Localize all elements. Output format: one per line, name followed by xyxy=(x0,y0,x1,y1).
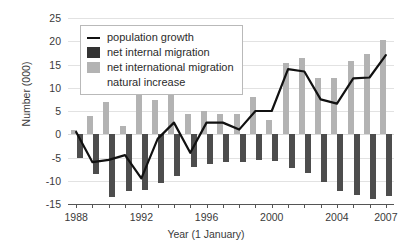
x-tick-mark-1996 xyxy=(207,204,208,208)
y-tick-label-10: 10 xyxy=(49,82,61,94)
x-tick-mark-1997 xyxy=(223,204,224,208)
x-axis xyxy=(68,204,394,205)
chart-legend: population growthnet internal migrationn… xyxy=(80,25,243,95)
x-tick-mark-1995 xyxy=(190,204,191,208)
x-tick-label-1996: 1996 xyxy=(195,211,218,223)
x-tick-mark-2004 xyxy=(337,204,338,208)
x-tick-mark-2003 xyxy=(321,204,322,208)
legend-item-1: net internal migration xyxy=(87,45,234,60)
legend-label: net international migration xyxy=(107,61,234,74)
x-tick-mark-2001 xyxy=(288,204,289,208)
legend-label: population growth xyxy=(107,31,194,44)
x-tick-mark-2002 xyxy=(304,204,305,208)
x-tick-mark-1999 xyxy=(255,204,256,208)
x-tick-mark-1990 xyxy=(109,204,110,208)
x-tick-label-2004: 2004 xyxy=(325,211,348,223)
y-tick-label-20: 20 xyxy=(49,35,61,47)
legend-swatch-light-icon xyxy=(87,62,100,73)
x-tick-label-1992: 1992 xyxy=(130,211,153,223)
y-tick-label-5: 5 xyxy=(55,105,61,117)
legend-item-0: population growth xyxy=(87,30,234,45)
x-tick-mark-1994 xyxy=(174,204,175,208)
x-tick-mark-1992 xyxy=(141,204,142,208)
x-tick-mark-1991 xyxy=(125,204,126,208)
legend-label: natural increase xyxy=(107,76,185,89)
y-tick-label-15: 15 xyxy=(49,59,61,71)
x-tick-mark-1988 xyxy=(76,204,77,208)
legend-label: net internal migration xyxy=(107,46,210,59)
x-tick-label-2000: 2000 xyxy=(260,211,283,223)
x-tick-mark-1989 xyxy=(92,204,93,208)
x-tick-mark-1998 xyxy=(239,204,240,208)
x-tick-label-1988: 1988 xyxy=(64,211,87,223)
legend-item-3: natural increase xyxy=(87,75,234,90)
x-tick-mark-2006 xyxy=(370,204,371,208)
legend-swatch-none-icon xyxy=(87,77,100,88)
x-tick-label-2007: 2007 xyxy=(374,211,397,223)
y-tick-label-25: 25 xyxy=(49,12,61,24)
x-tick-mark-2000 xyxy=(272,204,273,208)
population-growth-chart: Number (000) 2520151050-5-10-15 19881992… xyxy=(0,0,412,249)
legend-swatch-dark-icon xyxy=(87,47,100,58)
y-tick-label--10: -10 xyxy=(46,175,61,187)
y-tick-label-0: 0 xyxy=(55,128,61,140)
x-tick-mark-1993 xyxy=(158,204,159,208)
y-tick-label--15: -15 xyxy=(46,198,61,210)
legend-swatch-line-icon xyxy=(87,32,100,43)
y-tick-label--5: -5 xyxy=(52,152,61,164)
legend-item-2: net international migration xyxy=(87,60,234,75)
y-axis-title: Number (000) xyxy=(20,34,32,154)
x-tick-mark-2005 xyxy=(353,204,354,208)
x-tick-mark-2007 xyxy=(386,204,387,208)
x-axis-title: Year (1 January) xyxy=(0,228,412,240)
